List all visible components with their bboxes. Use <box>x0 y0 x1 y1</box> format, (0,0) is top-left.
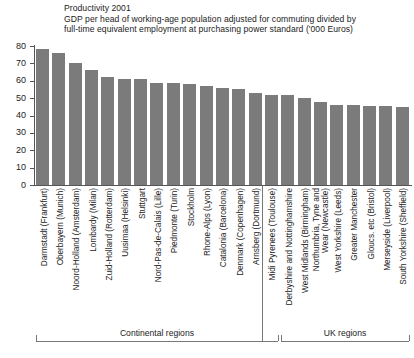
bar <box>265 95 278 185</box>
category-label-text: Uusimaa (Helsinki) <box>122 188 131 257</box>
chart-title-line-3: full-time equivalent employment at purch… <box>64 24 408 35</box>
bar <box>150 83 163 186</box>
bar <box>85 70 98 185</box>
group-bracket-line <box>36 341 278 342</box>
category-label: Rhone-Alps (Lyon) <box>200 188 217 326</box>
bar <box>347 105 360 185</box>
bar <box>281 95 294 185</box>
bar <box>101 77 114 185</box>
chart-title-line-2: GDP per head of working-age population a… <box>64 14 408 25</box>
category-label: Darmstadt (Frankfurt) <box>36 188 53 326</box>
category-label: Gloucs. etc (Bristol) <box>363 188 380 326</box>
chart-title-line-1: Productivity 2001 <box>64 3 408 14</box>
category-label-text: Stockholm <box>187 188 196 226</box>
category-label-text: Merseyside (Liverpool) <box>384 188 393 271</box>
x-axis-category-labels: Darmstadt (Frankfurt)Oberbayern (Munich)… <box>36 188 412 328</box>
y-tick-label: 70 <box>4 59 26 68</box>
category-label-text: Denmark (Copenhagen) <box>236 188 245 276</box>
category-label: Piedmonte (Turin) <box>167 188 184 326</box>
category-label-text: South Yorkshire (Sheffield) <box>400 188 409 285</box>
y-tick-label: 20 <box>4 146 26 155</box>
group-label: UK regions <box>281 328 408 338</box>
group-bracket-tick <box>278 335 279 341</box>
bar <box>330 105 343 185</box>
category-label: Stockholm <box>183 188 200 326</box>
category-label-text: Noord-Holland (Amsterdam) <box>73 188 82 290</box>
bar <box>396 107 409 185</box>
bar <box>216 88 229 185</box>
category-label: Uusimaa (Helsinki) <box>118 188 135 326</box>
category-label: Derbyshire and Nottinghamshire <box>281 188 298 326</box>
y-tick-label: 60 <box>4 76 26 85</box>
bar <box>167 83 180 186</box>
bar <box>249 93 262 185</box>
category-label-text: Greater Manchester <box>351 188 360 261</box>
category-label: Oberbayern (Munich) <box>52 188 69 326</box>
category-label: Greater Manchester <box>347 188 364 326</box>
category-label: Nord-Pas-de-Calais (Lille) <box>150 188 167 326</box>
group-bracket-line <box>281 341 408 342</box>
group-divider-line <box>262 186 263 341</box>
category-label: Merseyside (Liverpool) <box>379 188 396 326</box>
y-tick-label: 0 <box>4 181 26 190</box>
bar <box>118 79 131 185</box>
productivity-bar-chart: Productivity 2001 GDP per head of workin… <box>0 0 414 358</box>
bar <box>363 106 376 185</box>
category-label-text: Lombardy (Milan) <box>89 188 98 252</box>
category-label: Noord-Holland (Amsterdam) <box>69 188 86 326</box>
category-label: Denmark (Copenhagen) <box>232 188 249 326</box>
category-label-text: Darmstadt (Frankfurt) <box>40 188 49 266</box>
category-label-text: Oberbayern (Munich) <box>57 188 66 265</box>
bar <box>232 89 245 185</box>
category-label-text: Northumbria, Tyne andWear (Newcastle) <box>314 188 331 271</box>
bar <box>36 49 49 185</box>
category-label-text: Stuttgart <box>138 188 147 219</box>
category-label-text: West Midlands (Birmingham) <box>302 188 311 293</box>
y-tick-label: 10 <box>4 163 26 172</box>
category-label-text: West Yorkshire (Leeds) <box>335 188 344 273</box>
category-label-text: Piedmonte (Turin) <box>171 188 180 253</box>
bar <box>69 63 82 185</box>
y-tick-label: 40 <box>4 111 26 120</box>
chart-title-block: Productivity 2001 GDP per head of workin… <box>64 3 408 35</box>
category-label: Midi Pyrenees (Toulouse) <box>265 188 282 326</box>
category-label-text: Arnsberg (Dortmund) <box>253 188 262 265</box>
category-label-text: Zuid-Holland (Rotterdam) <box>106 188 115 280</box>
y-tick-label: 30 <box>4 128 26 137</box>
bar <box>183 84 196 185</box>
group-label: Continental regions <box>36 328 278 338</box>
category-label-text: Nord-Pas-de-Calais (Lille) <box>155 188 164 282</box>
category-label-text: Rhone-Alps (Lyon) <box>204 188 213 256</box>
bar <box>134 79 147 185</box>
bar <box>200 86 213 185</box>
category-label-text: Midi Pyrenees (Toulouse) <box>269 188 278 280</box>
bar <box>298 98 311 185</box>
category-label-text: Gloucs. etc (Bristol) <box>367 188 376 259</box>
y-tick-label: 50 <box>4 94 26 103</box>
category-label: South Yorkshire (Sheffield) <box>396 188 413 326</box>
bar <box>314 102 327 185</box>
x-axis-baseline <box>34 185 412 186</box>
category-label: Lombardy (Milan) <box>85 188 102 326</box>
category-label: Northumbria, Tyne andWear (Newcastle) <box>314 188 331 326</box>
category-label-text: Derbyshire and Nottinghamshire <box>285 188 294 305</box>
y-tick-label: 80 <box>4 42 26 51</box>
category-label: Zuid-Holland (Rotterdam) <box>101 188 118 326</box>
category-label: Stuttgart <box>134 188 151 326</box>
y-axis-line <box>34 45 35 186</box>
group-bracket-tick <box>409 335 410 341</box>
category-label: West Yorkshire (Leeds) <box>330 188 347 326</box>
bar-series <box>36 46 412 185</box>
bar <box>52 53 65 185</box>
category-label: Catalonia (Barcelona) <box>216 188 233 326</box>
bar <box>379 106 392 185</box>
category-label-text: Catalonia (Barcelona) <box>220 188 229 267</box>
